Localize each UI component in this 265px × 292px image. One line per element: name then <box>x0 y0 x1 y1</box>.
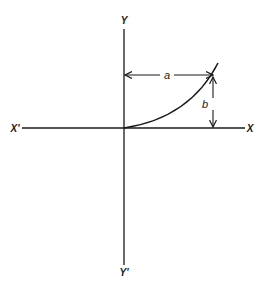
parabolic-curve <box>124 63 218 128</box>
label-y: Y <box>121 15 129 26</box>
label-x: X <box>246 123 255 134</box>
diagram-canvas: Y Y' X X' a b <box>0 0 265 292</box>
label-y-prime: Y' <box>119 267 129 278</box>
label-x-prime: X' <box>9 123 20 134</box>
label-b: b <box>202 98 208 110</box>
label-a: a <box>164 69 170 81</box>
